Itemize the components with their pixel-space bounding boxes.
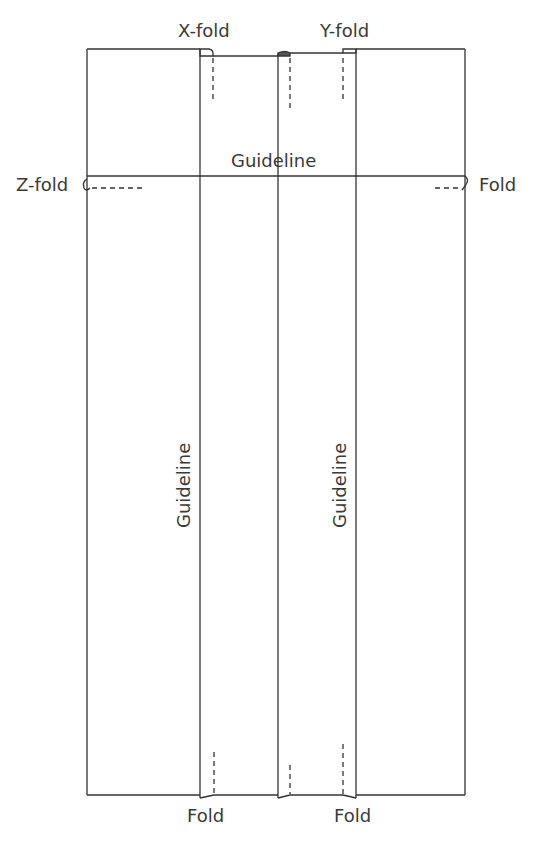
guideline-horizontal-label: Guideline (231, 151, 316, 171)
bottom-fold-right-label: Fold (334, 806, 371, 826)
guideline-vertical-left-label: Guideline (174, 443, 194, 528)
right-fold-label: Fold (479, 175, 516, 195)
guideline-vertical-right-label: Guideline (330, 443, 350, 528)
x-fold-label: X-fold (178, 21, 230, 41)
z-fold-label: Z-fold (16, 175, 68, 195)
bottom-fold-left-label: Fold (187, 806, 224, 826)
y-fold-label: Y-fold (320, 21, 369, 41)
fold-pattern-diagram (0, 0, 558, 852)
